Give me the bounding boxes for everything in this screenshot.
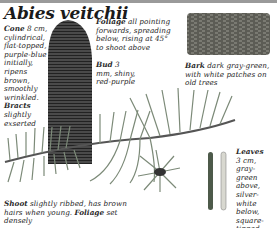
leaf-needles-illustration	[205, 150, 233, 212]
caption-leaves-text: 3 cm, gray-green above, silver-white bel…	[236, 156, 264, 228]
caption-foliage-density-term: Foliage	[74, 208, 104, 217]
caption-leaves: Leaves 3 cm, gray-green above, silver-wh…	[236, 148, 276, 228]
branch-illustration	[0, 80, 240, 200]
bark-sample-illustration	[186, 12, 271, 56]
needle-lower-side	[221, 152, 226, 210]
caption-shoot: Shoot slightly ribbed, has brown hairs w…	[4, 200, 134, 226]
needle-upper-side	[208, 152, 213, 210]
caption-foliage: Foliage all pointing forwards, spreading…	[96, 18, 176, 52]
